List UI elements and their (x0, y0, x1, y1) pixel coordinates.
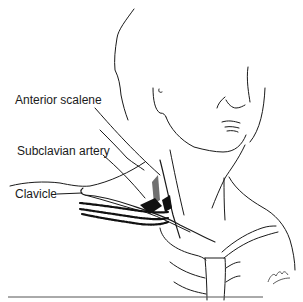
mouth (222, 121, 240, 132)
rib-right-2 (226, 276, 240, 282)
anatomy-figure: Anterior scalene Subclavian artery Clavi… (0, 0, 303, 302)
leader-subclavian-artery (103, 155, 145, 198)
manubrium (205, 258, 225, 300)
right-clavicle (222, 226, 276, 252)
signature (268, 272, 290, 284)
clavicle (81, 188, 215, 242)
scalene-hatching (140, 175, 172, 214)
label-clavicle: Clavicle (15, 188, 57, 201)
leader-clavicle (57, 193, 82, 194)
rib-right (226, 262, 240, 268)
clavicle-lower (85, 195, 190, 232)
neck-line-inner (224, 178, 225, 220)
jaw-line (166, 117, 246, 152)
shoulder-line (10, 162, 145, 186)
right-clavicle-lower (224, 232, 278, 258)
face-profile (250, 88, 265, 142)
rib-3 (174, 282, 206, 294)
head-outline (115, 9, 134, 120)
nostril (217, 97, 245, 108)
label-subclavian-artery: Subclavian artery (17, 145, 110, 158)
sternocleidomastoid-inner (170, 150, 184, 215)
rib-2 (170, 262, 205, 278)
trapezius (229, 177, 295, 270)
rib-1 (160, 228, 206, 260)
label-anterior-scalene: Anterior scalene (15, 94, 102, 107)
nose (247, 67, 250, 102)
ear-inner (159, 89, 162, 92)
neck-front (212, 145, 245, 208)
